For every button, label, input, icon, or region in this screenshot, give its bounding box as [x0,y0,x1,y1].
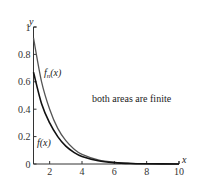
y-tick-label: 0.8 [18,49,31,60]
series-label-f: f(x) [37,137,52,149]
y-tick-label: 0 [26,159,31,170]
x-axis-label: x [181,154,187,165]
x-tick-label: 8 [144,166,149,177]
x-tick-label: 4 [80,166,85,177]
y-axis-label: y [28,16,34,27]
x-tick-label: 2 [47,166,52,177]
y-tick-label: 0.4 [18,104,31,115]
annotation: both areas are finite [92,93,172,104]
chart: 24681000.20.40.60.81 both areas are fini… [0,0,200,181]
series-f-curve [34,72,180,164]
x-tick-label: 10 [174,166,184,177]
series-label-fn: fn(x) [44,67,62,80]
x-tick-label: 6 [112,166,117,177]
y-tick-label: 0.2 [18,131,31,142]
y-tick-label: 0.6 [18,76,31,87]
